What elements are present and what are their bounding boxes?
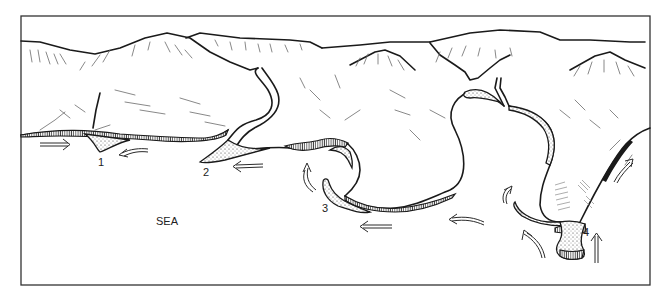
bay-deposit-3 [330,147,352,168]
arrow-left-3a [360,221,392,232]
arrow-up-3 [303,163,316,192]
bay-deposit-right [509,106,554,165]
arrow-up-4a [503,186,512,204]
cliff-line [93,93,100,128]
arrow-right-1 [40,139,70,150]
bay-deposit-inner [464,90,500,102]
arrow-left-2 [233,161,263,172]
label-3: 3 [322,202,328,214]
label-sea: SEA [156,215,179,227]
label-2: 2 [203,166,209,178]
arrow-up-4b [522,230,545,258]
coastal-diagram: 1 2 3 4 SEA [0,0,671,304]
arrow-left-3b [449,214,484,225]
label-1: 1 [98,156,104,168]
river-left [228,68,279,150]
arrow-left-1 [119,149,148,157]
arrow-up-4c [591,233,602,263]
feature-2-spit [200,140,270,163]
hill-ridgelines [21,30,645,80]
label-4: 4 [583,226,589,238]
